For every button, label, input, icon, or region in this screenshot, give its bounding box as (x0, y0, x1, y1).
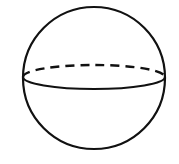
sphere-outline (23, 7, 165, 149)
sphere-diagram (0, 0, 179, 164)
equator-back-dashed (23, 65, 165, 77)
equator-front-solid (23, 77, 165, 89)
